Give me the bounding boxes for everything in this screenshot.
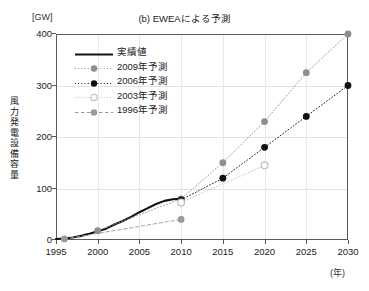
legend-label: 2006年予測 — [117, 73, 168, 87]
legend-item: 2006年予測 — [74, 73, 168, 88]
legend-label: 実績値 — [117, 44, 147, 58]
series-data-point — [178, 216, 185, 223]
series-data-point — [219, 159, 226, 166]
series-data-point — [261, 144, 268, 151]
legend-item: 実績値 — [74, 44, 168, 59]
legend-item: 2009年予測 — [74, 59, 168, 74]
series-data-point — [219, 175, 226, 182]
series-data-point — [261, 118, 268, 125]
legend-item: 2003年予測 — [74, 88, 168, 103]
legend-key-icon — [74, 46, 114, 57]
series-data-point — [61, 236, 68, 243]
legend-label: 1996年予測 — [117, 102, 168, 116]
series-line — [181, 86, 348, 200]
series-data-point — [345, 82, 352, 89]
series-data-point — [178, 199, 185, 206]
legend-label: 2009年予測 — [117, 59, 168, 73]
legend-key-icon — [74, 75, 114, 86]
legend-key-icon — [74, 104, 114, 115]
series-data-point — [261, 162, 268, 169]
series-data-point — [345, 31, 352, 38]
legend-key-icon — [74, 89, 114, 100]
series-line — [64, 219, 181, 239]
legend-item: 1996年予測 — [74, 102, 168, 117]
series-line — [181, 165, 264, 202]
legend-label: 2003年予測 — [117, 88, 168, 102]
legend-key-icon — [74, 60, 114, 71]
chart-legend: 実績値2009年予測2006年予測2003年予測1996年予測 — [74, 44, 168, 117]
series-data-point — [303, 113, 310, 120]
series-data-point — [303, 69, 310, 76]
chart-series-layer — [0, 0, 369, 291]
series-line — [56, 199, 181, 239]
